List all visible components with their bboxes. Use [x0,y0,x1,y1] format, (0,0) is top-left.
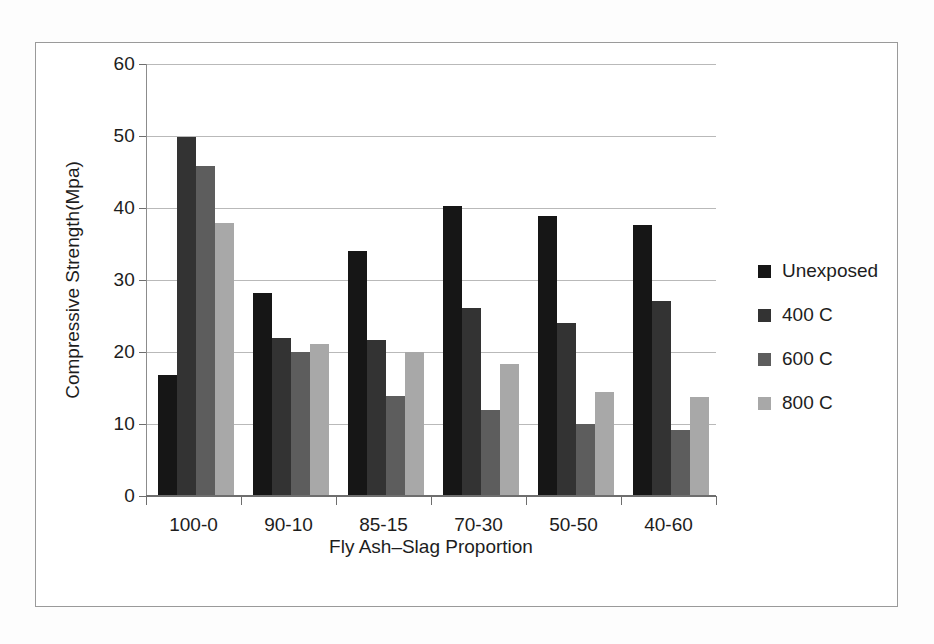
legend-swatch-icon [758,265,771,278]
bar-50-50-600-c[interactable] [576,424,595,496]
bar-group-90-10 [241,64,336,496]
bar-100-0-400-c[interactable] [177,137,196,496]
bar-group-50-50 [526,64,621,496]
bar-90-10-800-c[interactable] [310,344,329,496]
legend-swatch-icon [758,309,771,322]
bar-50-50-unexposed[interactable] [538,216,557,496]
bar-40-60-unexposed[interactable] [633,225,652,496]
y-tick-30 [139,280,146,281]
bar-85-15-800-c[interactable] [405,352,424,496]
x-tick-label-50-50: 50-50 [549,514,598,536]
bar-100-0-600-c[interactable] [196,166,215,496]
y-tick-label-0: 0 [124,485,135,507]
x-tick-2 [336,496,337,505]
legend-item-800-c[interactable]: 800 C [758,381,878,425]
x-tick-0 [146,496,147,505]
x-tick-label-70-30: 70-30 [454,514,503,536]
legend-item-unexposed[interactable]: Unexposed [758,249,878,293]
legend-label: 600 C [782,348,833,370]
bar-100-0-800-c[interactable] [215,223,234,496]
legend-swatch-icon [758,353,771,366]
plot-area: 0102030405060 100-090-1085-1570-3050-504… [146,64,716,496]
bar-70-30-unexposed[interactable] [443,206,462,496]
bar-group-40-60 [621,64,716,496]
bar-100-0-unexposed[interactable] [158,375,177,496]
y-axis-title: Compressive Strength(Mpa) [60,64,86,496]
bar-group-70-30 [431,64,526,496]
y-axis-title-text: Compressive Strength(Mpa) [62,161,84,399]
bar-70-30-600-c[interactable] [481,410,500,496]
x-tick-1 [241,496,242,505]
x-tick-label-85-15: 85-15 [359,514,408,536]
bar-50-50-400-c[interactable] [557,323,576,496]
y-tick-40 [139,208,146,209]
y-tick-label-60: 60 [113,53,135,75]
bar-85-15-600-c[interactable] [386,396,405,496]
bar-group-85-15 [336,64,431,496]
x-tick-label-90-10: 90-10 [264,514,313,536]
bar-50-50-800-c[interactable] [595,392,614,496]
y-tick-label-20: 20 [113,341,135,363]
y-tick-0 [139,496,146,497]
bar-90-10-unexposed[interactable] [253,293,272,496]
legend-item-400-c[interactable]: 400 C [758,293,878,337]
y-tick-20 [139,352,146,353]
bar-40-60-800-c[interactable] [690,397,709,496]
chart-legend: Unexposed400 C600 C800 C [758,249,878,425]
x-tick-5 [621,496,622,505]
legend-item-600-c[interactable]: 600 C [758,337,878,381]
legend-label: Unexposed [782,260,878,282]
bar-40-60-400-c[interactable] [652,301,671,496]
bar-70-30-400-c[interactable] [462,308,481,496]
y-tick-label-40: 40 [113,197,135,219]
x-tick-3 [431,496,432,505]
x-tick-4 [526,496,527,505]
legend-label: 800 C [782,392,833,414]
bar-groups [146,64,716,496]
y-tick-50 [139,136,146,137]
x-tick-6 [716,496,717,505]
bar-70-30-800-c[interactable] [500,364,519,496]
x-tick-label-100-0: 100-0 [169,514,218,536]
bar-85-15-unexposed[interactable] [348,251,367,496]
chart-frame: Compressive Strength(Mpa) 0102030405060 … [35,42,898,607]
y-tick-60 [139,64,146,65]
x-tick-label-40-60: 40-60 [644,514,693,536]
bar-group-100-0 [146,64,241,496]
x-axis-title: Fly Ash–Slag Proportion [146,536,716,558]
y-tick-label-50: 50 [113,125,135,147]
bar-90-10-600-c[interactable] [291,352,310,496]
bar-40-60-600-c[interactable] [671,430,690,496]
bar-90-10-400-c[interactable] [272,338,291,496]
legend-label: 400 C [782,304,833,326]
y-tick-label-10: 10 [113,413,135,435]
y-tick-10 [139,424,146,425]
y-tick-label-30: 30 [113,269,135,291]
bar-85-15-400-c[interactable] [367,340,386,496]
legend-swatch-icon [758,397,771,410]
